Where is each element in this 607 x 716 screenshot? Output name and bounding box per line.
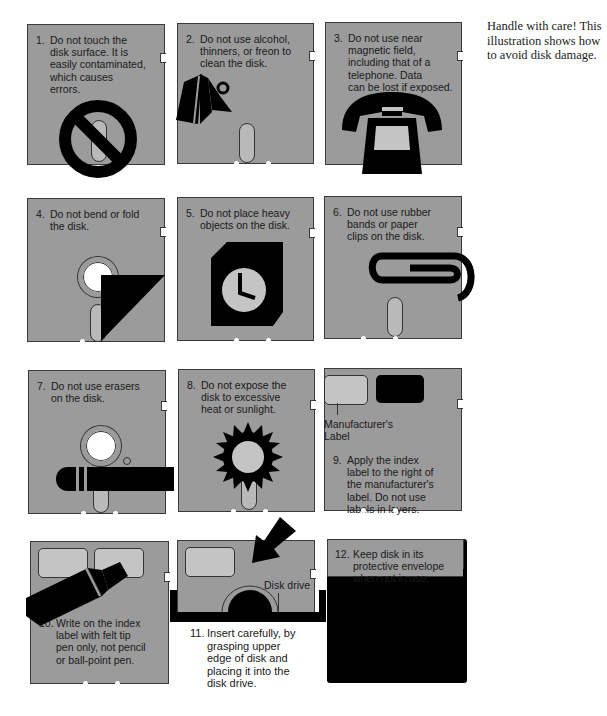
panel-9-label-placement: Manufacturer's Label 9. Apply the index … (324, 368, 462, 511)
step-number: 8. (187, 379, 196, 391)
step-text: Apply the index label to the right of th… (347, 454, 461, 515)
step-text: Do not expose the disk to excessive heat… (201, 379, 312, 416)
step-text: Do not place heavy objects on the disk. (200, 207, 311, 231)
step-number: 2. (186, 33, 195, 45)
folded-corner-icon (100, 274, 166, 344)
step-text: Do not use alcohol, thinners, or freon t… (200, 33, 311, 70)
manufacturer-label-box (324, 375, 368, 405)
step-number: 12. (335, 548, 350, 560)
paper-clip-icon (360, 250, 472, 300)
step-text: Do not use near magnetic field, includin… (348, 32, 462, 93)
panel-12-envelope: 12. Keep disk in its protective envelope… (327, 539, 467, 683)
step-number: 1. (36, 34, 45, 46)
step-number: 7. (37, 380, 46, 392)
sun-icon (213, 422, 283, 492)
figure-caption: Handle with care! This illustration show… (487, 19, 605, 63)
step-number: 6. (333, 206, 342, 218)
step-text: Do not use rubber bands or paper clips o… (347, 206, 458, 243)
index-label-box (376, 375, 424, 403)
heavy-clock-icon (209, 240, 285, 330)
step-number: 11. (190, 627, 204, 640)
step-number: 9. (333, 454, 342, 466)
envelope-notch (463, 569, 467, 577)
step-number: 5. (186, 207, 195, 219)
step-text: Do not bend or fold the disk. (50, 208, 161, 232)
manufacturer-label-caption: Manufacturer's Label (324, 418, 393, 442)
panel-11-caption: 11. Insert carefully, by grasping upper … (190, 627, 320, 690)
step-text: Keep disk in its protective envelope whe… (353, 548, 463, 585)
eraser-icon (54, 465, 174, 493)
step-text: Insert carefully, by grasping upper edge… (207, 627, 320, 690)
solvent-bottle-icon (172, 68, 242, 128)
no-touch-prohibition-icon (58, 99, 138, 179)
step-number: 4. (36, 208, 45, 220)
felt-tip-pen-icon (22, 556, 132, 626)
step-number: 3. (334, 32, 343, 44)
disk-drive-icon (170, 590, 326, 622)
telephone-icon (340, 90, 445, 175)
step-text: Do not touch the disk surface. It is eas… (50, 34, 161, 95)
step-text: Do not use erasers on the disk. (51, 380, 162, 404)
insert-arrow-icon (250, 517, 296, 565)
